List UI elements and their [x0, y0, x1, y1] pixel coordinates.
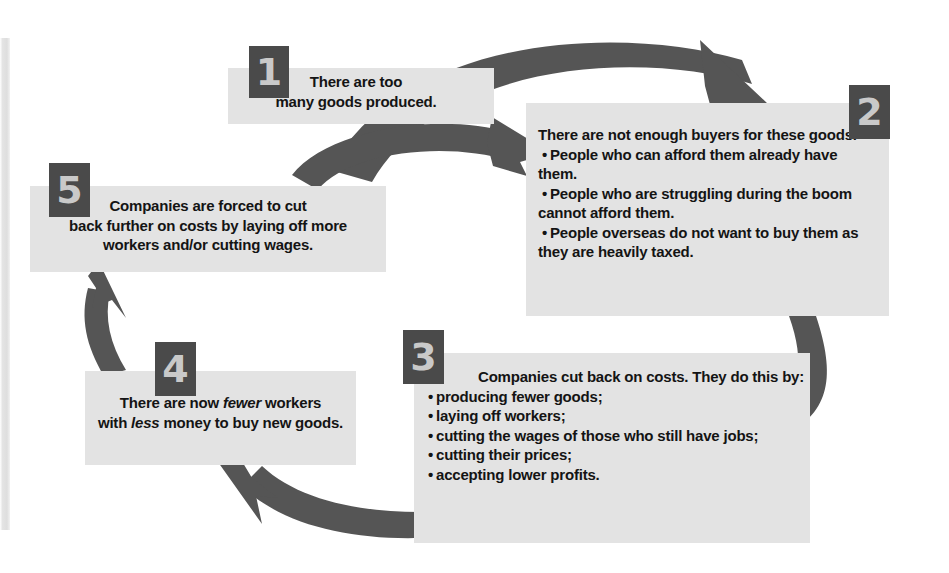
- list-item: •cutting the wages of those who still ha…: [424, 426, 800, 446]
- step-3-heading: Companies cut back on costs. They do thi…: [424, 367, 800, 387]
- emphasis-text: fewer: [223, 394, 261, 411]
- plain-text: with: [98, 414, 131, 431]
- step-4-line-1: There are now fewer workers: [93, 393, 348, 413]
- arrow-3-to-4: [218, 458, 420, 538]
- list-item: •producing fewer goods;: [424, 387, 800, 407]
- step-box-3: Companies cut back on costs. They do thi…: [414, 353, 810, 543]
- bullet-text: cutting the wages of those who still hav…: [436, 427, 758, 444]
- step-badge-2: 2: [849, 85, 890, 139]
- bullet-text: cutting their prices;: [436, 446, 572, 463]
- bullet-text: producing fewer goods;: [436, 388, 602, 405]
- bullet-icon: •: [424, 387, 436, 407]
- list-item: •People overseas do not want to buy them…: [538, 223, 877, 262]
- step-box-4: There are now fewer workers with less mo…: [85, 371, 356, 465]
- arrow-1-to-2: [292, 117, 551, 190]
- list-item: •laying off workers;: [424, 406, 800, 426]
- bullet-text: People overseas do not want to buy them …: [538, 224, 858, 261]
- step-3-bullet-list: •producing fewer goods; •laying off work…: [424, 387, 800, 485]
- step-badge-3: 3: [403, 330, 444, 384]
- list-item: •accepting lower profits.: [424, 465, 800, 485]
- bullet-icon: •: [538, 145, 550, 165]
- step-badge-4: 4: [155, 342, 196, 396]
- bullet-text: accepting lower profits.: [436, 466, 600, 483]
- list-item: •People who can afford them already have…: [538, 145, 877, 184]
- plain-text: There are now: [120, 394, 223, 411]
- plain-text: money to buy new goods.: [160, 414, 344, 431]
- step-5-line-1: Companies are forced to cut: [42, 196, 374, 216]
- step-5-line-3: workers and/or cutting wages.: [42, 235, 374, 255]
- bullet-icon: •: [538, 223, 550, 243]
- list-item: •cutting their prices;: [424, 445, 800, 465]
- step-2-bullet-list: •People who can afford them already have…: [538, 145, 877, 262]
- plain-text: workers: [261, 394, 321, 411]
- bullet-icon: •: [424, 426, 436, 446]
- step-box-2: There are not enough buyers for these go…: [526, 103, 889, 316]
- step-4-line-2: with less money to buy new goods.: [93, 413, 348, 433]
- step-5-line-2: back further on costs by laying off more: [42, 216, 374, 236]
- step-2-heading: There are not enough buyers for these go…: [538, 125, 877, 145]
- bullet-text: People who are struggling during the boo…: [538, 185, 852, 222]
- arrow-4-to-5: [85, 262, 126, 376]
- step-badge-5: 5: [49, 163, 90, 217]
- bullet-icon: •: [538, 184, 550, 204]
- bullet-icon: •: [424, 406, 436, 426]
- bullet-icon: •: [424, 445, 436, 465]
- diagram-canvas: There are too many goods produced. 1 The…: [0, 0, 949, 573]
- bullet-text: laying off workers;: [436, 407, 566, 424]
- emphasis-text: less: [131, 414, 159, 431]
- bullet-icon: •: [424, 465, 436, 485]
- list-item: •People who are struggling during the bo…: [538, 184, 877, 223]
- bullet-text: People who can afford them already have …: [538, 146, 837, 183]
- step-badge-1: 1: [249, 46, 289, 98]
